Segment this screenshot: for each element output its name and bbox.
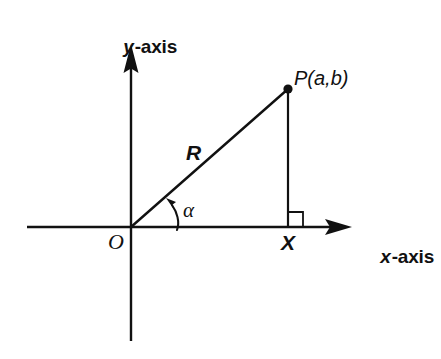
point-p-dot [283,84,292,93]
angle-alpha-label: α [183,200,194,221]
foot-x-label: X [281,232,295,253]
x-axis-label: x-axis [360,228,434,285]
right-angle-marker [288,212,303,227]
x-axis-label-suffix: -axis [392,246,434,267]
y-axis-label-suffix: -axis [135,36,177,57]
y-axis-group [124,44,139,341]
diagram-canvas [0,0,441,359]
y-axis-label-variable: y [123,36,134,57]
point-p-label: P(a,b) [294,68,348,88]
geometry-diagram: y-axis x-axis P(a,b) R O X α [0,0,441,359]
x-axis-label-variable: x [380,246,391,267]
angle-alpha-marker [166,198,178,230]
segment-hypotenuse [131,89,288,227]
y-axis-label: y-axis [103,18,177,75]
origin-label: O [108,231,124,253]
segment-r-label: R [186,142,201,163]
